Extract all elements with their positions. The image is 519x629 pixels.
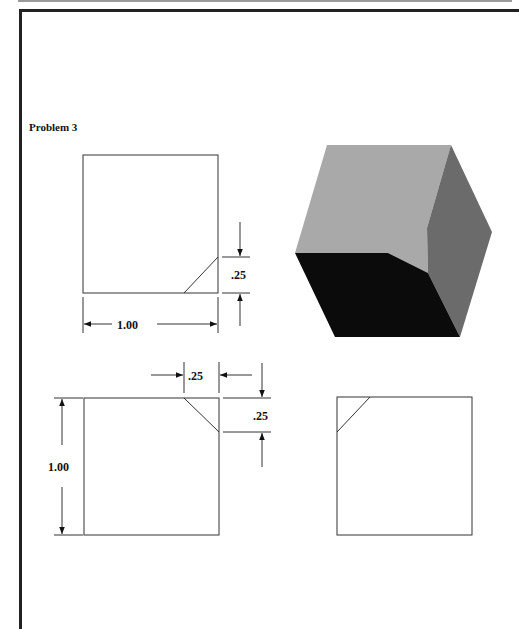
side-view-chamfer-line <box>337 397 370 432</box>
isometric-view <box>295 145 492 337</box>
top-height-dim-label: 1.00 <box>48 460 69 474</box>
top-chamfer-depth-dim-label: .25 <box>253 409 268 423</box>
side-view <box>337 397 472 535</box>
front-width-dim-label: 1.00 <box>117 318 138 332</box>
front-view-outline <box>83 155 218 293</box>
side-view-outline <box>337 397 472 535</box>
top-view-outline <box>84 398 219 535</box>
front-chamfer-dim-label: .25 <box>231 268 246 282</box>
front-view <box>83 155 250 333</box>
top-chamfer-width-dim-label: .25 <box>188 369 203 383</box>
top-view-chamfer-line <box>184 398 219 432</box>
front-view-chamfer-line <box>184 257 218 293</box>
top-view <box>54 362 271 535</box>
